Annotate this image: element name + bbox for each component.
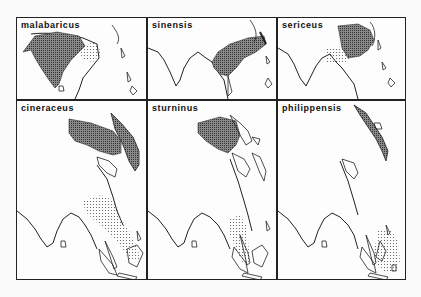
panel-label: sericeus	[282, 20, 323, 30]
panel-philippensis: philippensis	[278, 101, 405, 279]
species-range-map-grid: malabaricus sinensis sericeus	[16, 17, 406, 280]
panel-cineraceus: cineraceus	[17, 101, 146, 279]
panel-malabaricus: malabaricus	[17, 18, 146, 99]
panel-sericeus: sericeus	[278, 18, 405, 99]
panel-sinensis: sinensis	[148, 18, 276, 99]
panel-sturninus: sturninus	[148, 101, 276, 279]
panel-label: philippensis	[282, 103, 342, 113]
panel-label: cineraceus	[21, 103, 74, 113]
panel-label: sturninus	[152, 103, 198, 113]
map-philippensis	[278, 101, 405, 279]
map-sinensis	[148, 18, 276, 99]
panel-label: sinensis	[152, 20, 193, 30]
map-sturninus	[148, 101, 276, 279]
map-sericeus	[278, 18, 405, 99]
map-malabaricus	[17, 18, 146, 99]
map-cineraceus	[17, 101, 146, 279]
panel-label: malabaricus	[21, 20, 80, 30]
